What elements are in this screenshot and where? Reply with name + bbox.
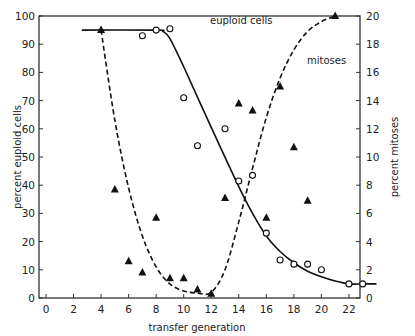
x-tick-label: 20 (315, 303, 328, 315)
x-tick-label: 2 (70, 303, 77, 315)
annotation-euploid-cells: euploid cells (210, 15, 272, 26)
mitoses-data-point (152, 213, 160, 221)
y-tick-label-left: 20 (22, 236, 35, 248)
euploid-data-point (181, 95, 187, 101)
mitoses-data-point (166, 274, 174, 282)
euploid-data-point (277, 257, 283, 263)
euploid-data-point (153, 27, 159, 33)
mitoses-data-point (304, 196, 312, 204)
mitoses-data-point (235, 99, 243, 107)
euploid-data-point (236, 178, 242, 184)
x-tick-label: 10 (177, 303, 190, 315)
x-tick-label: 6 (125, 303, 132, 315)
x-tick-label: 16 (260, 303, 274, 315)
euploid-data-point (318, 267, 324, 273)
x-tick-label: 18 (287, 303, 300, 315)
y-tick-label-left: 50 (22, 151, 35, 163)
y-tick-label-right: 12 (366, 123, 379, 135)
mitoses-data-point (111, 185, 119, 193)
euploid-data-point (346, 281, 352, 287)
euploid-data-point (291, 261, 297, 267)
mitoses-data-point (138, 268, 146, 276)
y-tick-label-left: 70 (22, 95, 35, 107)
mitoses-data-point (249, 106, 257, 114)
chart: 0246810121416182022010203040506070809010… (0, 0, 415, 336)
y-tick-label-left: 40 (22, 179, 35, 191)
euploid-data-point (167, 26, 173, 32)
x-tick-label: 12 (205, 303, 218, 315)
x-tick-label: 14 (232, 303, 246, 315)
euploid-fit-curve (82, 30, 377, 284)
annotation-mitoses: mitoses (307, 55, 346, 66)
y-tick-label-right: 4 (366, 236, 373, 248)
x-axis-label: transfer generation (148, 322, 245, 333)
y-tick-label-left: 0 (28, 292, 35, 304)
y-tick-label-left: 80 (22, 66, 35, 78)
mitoses-data-point (193, 285, 201, 293)
euploid-data-point (222, 126, 228, 132)
euploid-data-point (139, 33, 145, 39)
y-tick-label-right: 8 (366, 179, 373, 191)
mitoses-data-point (290, 143, 298, 151)
euploid-data-point (305, 261, 311, 267)
y-axis-label-right: percent mitoses (389, 117, 400, 198)
euploid-data-point (360, 281, 366, 287)
mitoses-data-point (180, 274, 188, 282)
y-tick-label-right: 18 (366, 38, 379, 50)
y-tick-label-right: 20 (366, 10, 379, 22)
euploid-data-point (250, 172, 256, 178)
y-tick-label-left: 30 (22, 207, 35, 219)
y-axis-label-left: percent euploid cells (12, 105, 23, 209)
y-tick-label-right: 0 (366, 292, 373, 304)
y-tick-label-right: 10 (366, 151, 379, 163)
y-tick-label-right: 2 (366, 264, 373, 276)
x-tick-label: 4 (98, 303, 105, 315)
mitoses-fit-curve (101, 16, 335, 294)
y-tick-label-right: 16 (366, 66, 380, 78)
mitoses-data-point (221, 193, 229, 201)
y-tick-label-left: 100 (15, 10, 35, 22)
x-tick-label: 22 (342, 303, 355, 315)
euploid-data-point (263, 230, 269, 236)
mitoses-data-point (331, 12, 339, 20)
mitoses-data-point (125, 257, 133, 265)
y-tick-label-right: 6 (366, 207, 373, 219)
x-tick-label: 0 (43, 303, 50, 315)
y-tick-label-left: 90 (22, 38, 35, 50)
y-tick-label-left: 10 (22, 264, 35, 276)
euploid-data-point (194, 143, 200, 149)
x-tick-label: 8 (153, 303, 160, 315)
y-tick-label-right: 14 (366, 95, 380, 107)
mitoses-data-point (262, 213, 270, 221)
y-tick-label-left: 60 (22, 123, 35, 135)
